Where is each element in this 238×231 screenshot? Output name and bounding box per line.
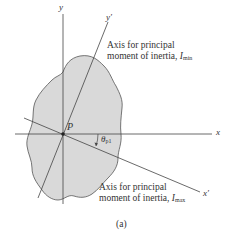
annotation-imin-line2: moment of inertia, Imin: [107, 51, 192, 64]
figure-caption: (a): [116, 219, 127, 230]
annotation-imax-line1: Axis for principal: [99, 182, 185, 193]
point-p-label: P: [67, 121, 73, 132]
annotation-imin: Axis for principal moment of inertia, Im…: [107, 40, 192, 63]
annotation-imin-line1: Axis for principal: [107, 40, 192, 51]
imin-subscript: min: [183, 55, 192, 61]
annotation-imax-line2: moment of inertia, Imax: [99, 193, 185, 206]
annotation-imax-text: moment of inertia,: [99, 193, 172, 203]
imax-subscript: max: [175, 197, 185, 203]
y-axis-label: y: [59, 2, 63, 12]
y-prime-axis-label: y′: [106, 12, 112, 22]
theta-label: θp1: [101, 134, 111, 144]
point-p: [61, 132, 65, 136]
principal-axes-figure: y y′ x x′ P θp1 Axis for principal momen…: [0, 0, 238, 231]
x-prime-axis-label: x′: [203, 188, 209, 198]
x-axis-label: x: [216, 127, 220, 137]
theta-subscript: p1: [105, 138, 111, 144]
cross-section-area: [27, 56, 122, 200]
annotation-imax: Axis for principal moment of inertia, Im…: [99, 182, 185, 205]
annotation-imin-text: moment of inertia,: [107, 51, 180, 61]
